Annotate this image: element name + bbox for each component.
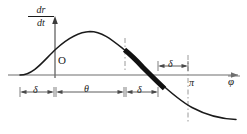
origin-label: O	[58, 55, 66, 66]
y-axis-label: dr dt	[28, 4, 54, 28]
dr-dt-vs-phi-diagram: dr dt O δ θ δ δ π φ	[0, 0, 247, 134]
dimension-delta-right	[158, 61, 188, 71]
y-axis-label-numerator: dr	[28, 4, 54, 17]
dimension-label-delta-middle: δ	[137, 85, 142, 95]
x-axis-tick-label-pi: π	[189, 78, 194, 88]
dimension-delta-middle	[126, 87, 158, 97]
curve-thick-highlight-segment	[125, 50, 165, 89]
dimension-theta	[56, 87, 124, 97]
x-axis-label: φ	[228, 76, 234, 87]
dimension-label-delta-right: δ	[168, 59, 173, 69]
y-axis-label-denominator: dt	[28, 17, 54, 29]
dimension-label-delta-left: δ	[33, 85, 38, 95]
x-axis	[8, 72, 238, 78]
dimension-label-theta: θ	[84, 84, 89, 94]
